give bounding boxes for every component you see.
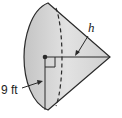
radius-label: 9 ft [1,83,18,97]
center-point [43,55,48,60]
cone-diagram: h 9 ft [0,0,122,118]
slant-height-label: h [88,20,95,35]
